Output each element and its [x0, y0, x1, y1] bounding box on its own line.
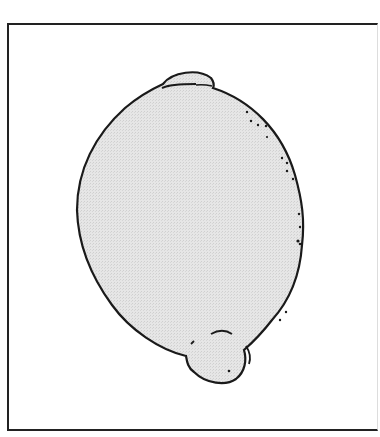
lemon-body — [77, 72, 303, 383]
lemon-illustration — [0, 0, 380, 437]
tip-side-curve — [246, 346, 250, 364]
